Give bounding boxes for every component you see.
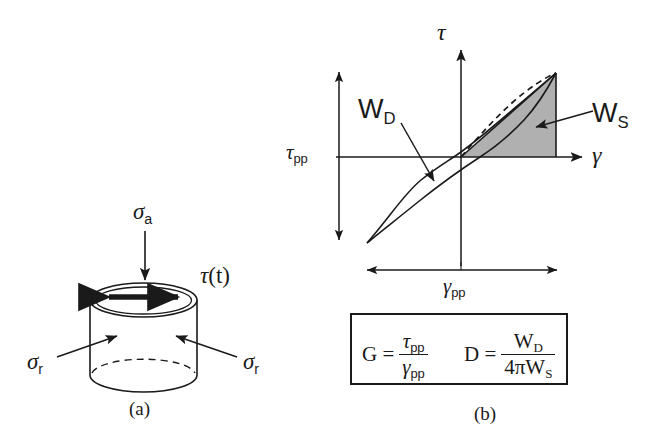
tau-pp-label: τpp bbox=[286, 142, 308, 163]
shear-modulus-fraction: τpp γpp bbox=[399, 330, 427, 378]
radial-stress-label-left: σr bbox=[27, 350, 43, 373]
formula-box: G = τpp γpp D = WD 4πWS bbox=[350, 313, 568, 385]
radial-stress-arrow-right bbox=[176, 336, 237, 357]
wd-label: WD bbox=[358, 96, 395, 123]
wd-leader-arrow bbox=[401, 123, 434, 181]
ws-label: WS bbox=[592, 100, 628, 127]
caption-panel-a: (a) bbox=[129, 399, 150, 418]
shear-modulus-numerator: τpp bbox=[400, 330, 428, 354]
gamma-pp-label: γpp bbox=[443, 276, 465, 297]
caption-panel-b: (b) bbox=[474, 404, 496, 423]
x-axis-label: γ bbox=[592, 143, 601, 167]
cylinder-hidden-edge bbox=[92, 359, 195, 373]
figure-root: σa τ(t) σr σr (a) τ γ τpp γpp WD WS G = … bbox=[0, 0, 653, 445]
damping-ratio-lhs: D = bbox=[464, 342, 496, 367]
shear-modulus-formula: G = τpp γpp bbox=[362, 330, 428, 378]
damping-ratio-numerator: WD bbox=[511, 330, 546, 354]
shear-modulus-denominator: γpp bbox=[399, 354, 427, 379]
damping-ratio-denominator: 4πWS bbox=[501, 354, 555, 379]
shear-modulus-lhs: G = bbox=[362, 342, 394, 367]
shear-stress-label: τ(t) bbox=[200, 264, 230, 287]
radial-stress-arrow-left bbox=[57, 336, 117, 357]
radial-stress-label-right: σr bbox=[243, 350, 259, 373]
y-axis-label: τ bbox=[437, 20, 446, 44]
gamma-pp-measure-arrow bbox=[367, 262, 557, 270]
damping-ratio-fraction: WD 4πWS bbox=[501, 330, 555, 378]
axial-stress-label: σa bbox=[133, 200, 152, 223]
damping-ratio-formula: D = WD 4πWS bbox=[464, 330, 555, 378]
cylinder-top-face bbox=[90, 283, 197, 317]
